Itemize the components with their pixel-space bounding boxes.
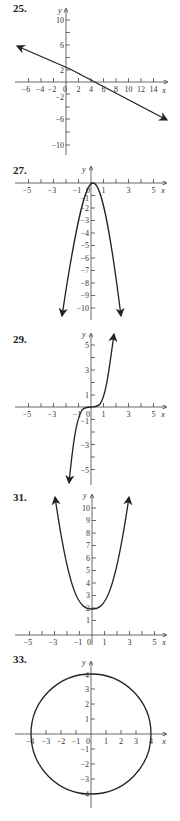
svg-text:5: 5 [152,410,156,419]
svg-text:5: 5 [152,186,156,195]
svg-text:3: 3 [134,737,138,746]
svg-text:−1: −1 [72,737,81,746]
problem-33: 33. −4−3−2−1 0123 4x 4321 −1−2−3−4 y [0,650,180,821]
svg-text:4: 4 [85,671,89,680]
svg-text:−2: −2 [80,760,89,769]
svg-text:5: 5 [85,341,89,350]
svg-text:2: 2 [119,737,123,746]
svg-text:3: 3 [85,685,89,694]
svg-text:3: 3 [127,410,131,419]
svg-text:5: 5 [153,638,157,647]
svg-text:−2: −2 [57,737,66,746]
svg-text:3: 3 [86,591,90,600]
svg-text:y: y [81,165,86,174]
problem-27: 27. −5−3−10 135 x −1−2−3−4 −5−6−7−8 −9−1… [0,160,180,330]
svg-text:−2: −2 [55,93,64,102]
svg-text:−3: −3 [48,186,57,195]
svg-text:−3: −3 [42,737,51,746]
svg-text:−5: −5 [23,186,32,195]
graph-27-parabola: −5−3−10 135 x −1−2−3−4 −5−6−7−8 −9−10 y [0,160,180,330]
svg-text:10: 10 [82,504,90,513]
svg-text:y: y [82,491,87,500]
problem-25: 25. −6−4−20 2468 101214 x [0,0,180,160]
svg-text:y: y [81,658,86,667]
graph-25-line: −6−4−20 2468 101214 x 1062 −2−6−10 y [0,0,180,160]
svg-text:5: 5 [86,566,90,575]
svg-text:7: 7 [86,541,90,550]
svg-text:1: 1 [86,616,90,625]
svg-text:2: 2 [85,700,89,709]
svg-text:−8: −8 [80,279,89,288]
svg-text:−5: −5 [24,638,33,647]
svg-text:10: 10 [56,16,64,25]
svg-text:1: 1 [102,186,106,195]
svg-text:−5: −5 [23,410,32,419]
svg-text:1: 1 [85,715,89,724]
svg-text:1: 1 [85,391,89,400]
svg-text:1: 1 [102,410,106,419]
problem-29: 29. −5−3−10 135 x 531 −1−3−5 y [0,330,180,490]
svg-text:−4: −4 [26,737,35,746]
svg-text:−3: −3 [49,638,58,647]
svg-text:6: 6 [86,554,90,563]
svg-text:−10: −10 [51,141,64,150]
svg-text:0: 0 [87,638,91,647]
svg-text:3: 3 [127,186,131,195]
svg-text:2: 2 [77,85,81,94]
svg-text:x: x [161,638,166,647]
svg-text:1: 1 [104,737,108,746]
svg-text:x: x [160,186,165,195]
problem-31: 31. −5−3−10 135 x 10987 6543 21 y [0,490,180,650]
svg-text:−6: −6 [80,254,89,263]
svg-text:4: 4 [86,579,90,588]
svg-text:3: 3 [85,366,89,375]
svg-text:−7: −7 [80,266,89,275]
svg-text:−3: −3 [80,775,89,784]
svg-text:x: x [161,737,166,746]
svg-text:−1: −1 [74,638,83,647]
svg-text:x: x [161,86,166,95]
svg-text:9: 9 [86,516,90,525]
svg-text:6: 6 [60,41,64,50]
svg-text:−1: −1 [80,417,89,426]
svg-text:−9: −9 [80,291,89,300]
graph-31-parabola: −5−3−10 135 x 10987 6543 21 y [0,490,180,650]
svg-text:8: 8 [86,529,90,538]
svg-text:−1: −1 [80,745,89,754]
svg-text:x: x [160,410,165,419]
svg-text:2: 2 [60,66,64,75]
svg-text:−5: −5 [80,241,89,250]
graph-33-circle: −4−3−2−1 0123 4x 4321 −1−2−3−4 y [0,650,180,821]
svg-text:y: y [57,6,62,15]
svg-text:12: 12 [137,85,145,94]
svg-text:−4: −4 [80,229,89,238]
svg-text:−6: −6 [55,115,64,124]
svg-text:−4: −4 [36,85,45,94]
svg-text:−3: −3 [48,410,57,419]
svg-text:y: y [81,330,86,339]
svg-text:1: 1 [103,638,107,647]
graph-29-cubic: −5−3−10 135 x 531 −1−3−5 y [0,330,180,490]
svg-text:−3: −3 [80,216,89,225]
svg-text:14: 14 [150,85,158,94]
svg-text:10: 10 [125,85,133,94]
svg-text:−5: −5 [80,466,89,475]
svg-text:−3: −3 [80,441,89,450]
svg-text:3: 3 [128,638,132,647]
svg-text:−6: −6 [22,85,31,94]
svg-text:4: 4 [89,85,93,94]
svg-text:−10: −10 [76,304,89,313]
